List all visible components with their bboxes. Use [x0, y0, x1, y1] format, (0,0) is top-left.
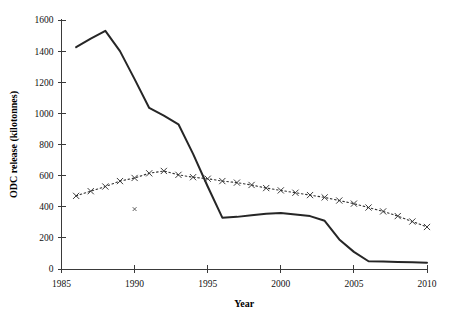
y-tick-label: 1600 — [35, 15, 54, 25]
y-tick-label: 1400 — [35, 47, 54, 57]
data-point-marker-x — [424, 224, 430, 230]
data-point-marker-x — [117, 178, 123, 184]
data-point-marker-x — [395, 213, 401, 219]
x-tick-label: 2005 — [344, 279, 363, 289]
y-axis-title: ODC release (kilotonnes) — [8, 91, 20, 198]
data-point-marker-x — [146, 170, 152, 176]
chart-container: 02004006008001000120014001600 1985199019… — [0, 0, 449, 319]
data-point-marker-x — [307, 192, 313, 198]
data-point-marker-x — [365, 204, 371, 210]
x-tick-label: 1990 — [125, 279, 144, 289]
data-point-marker-x — [102, 183, 108, 189]
data-point-marker-x — [175, 172, 181, 178]
y-tick-label: 1200 — [35, 78, 54, 88]
y-tick-label: 800 — [39, 140, 54, 150]
x-tick-label: 2000 — [271, 279, 290, 289]
x-tick-label: 2010 — [418, 279, 437, 289]
isolated-data-point — [133, 207, 137, 211]
y-tick-label: 0 — [49, 264, 54, 274]
data-point-marker-x — [409, 218, 415, 224]
data-point-marker-x — [278, 187, 284, 193]
x-tick-label: 1985 — [52, 279, 71, 289]
y-tick-label: 200 — [39, 233, 54, 243]
data-point-marker-x — [88, 188, 94, 194]
y-tick-label: 1000 — [35, 109, 54, 119]
y-axis-tick-labels: 02004006008001000120014001600 — [35, 15, 54, 274]
data-point-marker-x — [73, 193, 79, 199]
y-tick-label: 400 — [39, 202, 54, 212]
y-tick-label: 600 — [39, 171, 54, 181]
series-line-1 — [76, 171, 427, 227]
data-point-marker-x — [380, 208, 386, 214]
chart-plot: 02004006008001000120014001600 1985199019… — [0, 0, 449, 319]
series-line-0 — [76, 31, 427, 263]
data-series-layer — [73, 31, 430, 263]
data-point-marker-x — [336, 197, 342, 203]
x-axis-title: Year — [234, 298, 255, 309]
x-axis-tick-labels: 198519901995200020052010 — [52, 279, 437, 289]
x-tick-label: 1995 — [198, 279, 217, 289]
